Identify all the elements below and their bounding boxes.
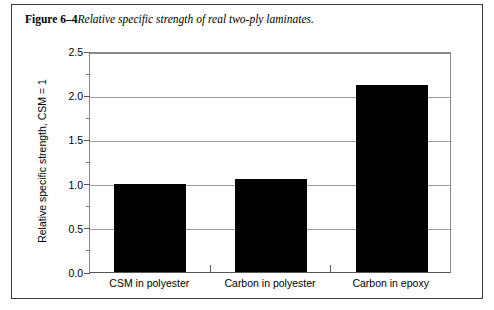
figure-caption-text: Relative specific strength of real two-p… <box>78 13 314 25</box>
y-axis-major-tick <box>84 184 90 185</box>
x-axis-tick-labels: CSM in polyesterCarbon in polyesterCarbo… <box>89 277 451 295</box>
y-axis-minor-tick <box>86 118 90 119</box>
y-axis-tick-label: 0.5 <box>53 224 83 234</box>
y-axis-title: Relative specific strength, CSM = 1 <box>36 54 48 269</box>
y-axis-tick-label: 2.0 <box>53 91 83 101</box>
x-axis-category-label: Carbon in epoxy <box>330 277 451 289</box>
y-axis-tick-label: 0.0 <box>53 268 83 278</box>
y-axis-major-tick <box>84 140 90 141</box>
bar <box>114 184 186 272</box>
y-axis-minor-tick <box>86 74 90 75</box>
y-axis-tick-label: 1.0 <box>53 180 83 190</box>
bar <box>235 179 307 272</box>
x-axis-tick <box>330 265 331 273</box>
y-axis-major-tick <box>84 96 90 97</box>
x-axis-tick <box>210 265 211 273</box>
x-axis-category-label: Carbon in polyester <box>210 277 331 289</box>
y-axis-major-tick <box>84 228 90 229</box>
y-axis-major-tick <box>84 52 90 53</box>
y-axis-minor-tick <box>86 206 90 207</box>
y-axis-major-tick <box>84 273 90 274</box>
figure-frame: Figure 6–4Relative specific strength of … <box>11 4 483 299</box>
plot-area <box>89 52 451 273</box>
figure-number: Figure 6–4 <box>25 13 78 25</box>
y-axis-minor-tick <box>86 162 90 163</box>
x-axis-category-label: CSM in polyester <box>89 277 210 289</box>
bar-chart: Relative specific strength, CSM = 1 0.00… <box>12 33 484 299</box>
gridline <box>90 53 450 54</box>
figure-caption: Figure 6–4Relative specific strength of … <box>25 11 475 27</box>
y-axis-minor-tick <box>86 250 90 251</box>
y-axis-tick-labels: 0.00.51.01.52.02.5 <box>50 52 83 273</box>
y-axis-tick-label: 2.5 <box>53 47 83 57</box>
y-axis-tick-label: 1.5 <box>53 135 83 145</box>
bar <box>356 85 428 272</box>
